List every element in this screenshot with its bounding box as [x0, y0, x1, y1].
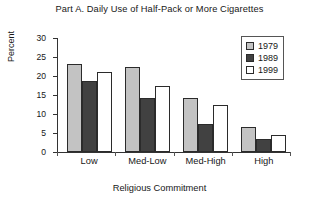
- bar: [198, 124, 213, 153]
- bar: [125, 67, 140, 152]
- bar-group: Med-High: [183, 38, 228, 152]
- y-tick-label: 15: [36, 91, 46, 100]
- y-tick: [53, 57, 57, 58]
- y-axis-title: Percent: [6, 31, 16, 62]
- bar: [140, 98, 155, 152]
- x-tick: [115, 152, 116, 156]
- legend-swatch-icon: [246, 42, 254, 50]
- bar: [67, 64, 82, 152]
- legend-label: 1989: [258, 54, 278, 63]
- y-tick: [53, 114, 57, 115]
- bar: [97, 72, 112, 152]
- bar: [241, 127, 256, 152]
- bar: [183, 98, 198, 152]
- y-tick-label: 30: [36, 34, 46, 43]
- legend-label: 1999: [258, 66, 278, 75]
- x-tick: [174, 152, 175, 156]
- bar-group: Med-Low: [125, 38, 170, 152]
- bar: [82, 81, 97, 152]
- x-axis-title: Religious Commitment: [0, 183, 319, 193]
- x-category-label: High: [241, 156, 286, 166]
- y-tick: [53, 76, 57, 77]
- y-tick-label: 25: [36, 53, 46, 62]
- x-tick: [232, 152, 233, 156]
- legend-item[interactable]: 1999: [246, 64, 278, 76]
- legend-swatch-icon: [246, 66, 254, 74]
- y-tick-label: 5: [41, 129, 46, 138]
- x-tick: [57, 152, 58, 156]
- legend-item[interactable]: 1979: [246, 40, 278, 52]
- bar: [271, 135, 286, 152]
- bar: [213, 105, 228, 152]
- bar: [155, 86, 170, 152]
- x-category-label: Med-High: [183, 156, 228, 166]
- chart-title: Part A. Daily Use of Half-Pack or More C…: [0, 4, 319, 14]
- x-category-label: Low: [67, 156, 112, 166]
- x-tick: [290, 152, 291, 156]
- bar-group: Low: [67, 38, 112, 152]
- y-axis-line: [57, 38, 58, 152]
- y-tick: [53, 133, 57, 134]
- x-category-label: Med-Low: [125, 156, 170, 166]
- y-tick-label: 10: [36, 110, 46, 119]
- y-tick: [53, 95, 57, 96]
- legend-item[interactable]: 1989: [246, 52, 278, 64]
- legend: 197919891999: [241, 36, 284, 80]
- y-tick: [53, 38, 57, 39]
- y-tick-label: 20: [36, 72, 46, 81]
- y-tick-label: 0: [41, 148, 46, 157]
- legend-swatch-icon: [246, 54, 254, 62]
- bar: [256, 139, 271, 152]
- legend-label: 1979: [258, 42, 278, 51]
